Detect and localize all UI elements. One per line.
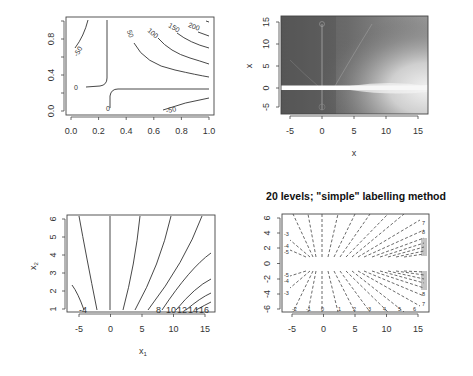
x-tick-label: 15 [413,324,423,334]
contour-label: 12 [177,305,187,315]
contour-label: -50 [72,45,83,57]
figure-canvas: -50 0 0 50 100 150 200 -50 0.0 0.2 0.4 0… [0,0,473,376]
y-tick-label: 1 [48,306,58,311]
x-tick-label: 10 [381,324,391,334]
y-axis-title-subscript: 2 [33,262,39,266]
contour-label: -5 [284,249,289,255]
contour-label: -1 [306,306,311,312]
y-tick-label: 0.0 [46,105,56,118]
x-tick-label: 10 [168,324,178,334]
plot-frame [282,214,429,312]
contour-label: 8 [422,291,425,297]
contour-label: 100 [146,27,160,40]
contour-label: 8 [422,229,425,235]
x-axis: -5 0 5 10 15 x [286,116,423,158]
contour-label: 7 [422,220,425,226]
contour-label: 10 [166,305,176,315]
x-axis: -5 0 5 10 15 x1 [75,314,210,357]
contour-label: 2 [353,306,356,312]
y-axis-title: x [244,63,254,68]
contour-label: 14 [188,305,198,315]
contour-label: 0 [74,84,78,91]
y-tick-label: 0 [261,85,271,90]
dashed-contour-lines [290,214,424,312]
contour-label: 6 [413,306,416,312]
y-tick-label: 10 [261,39,271,49]
x-tick-label: -5 [288,324,296,334]
x-tick-label: 0.2 [92,126,105,136]
y-tick-label: 15 [261,17,271,27]
contour-label: 8 [156,305,161,315]
x-tick-label: 10 [381,126,391,136]
x-tick-label: 5 [352,324,357,334]
x-tick-label: 1.0 [203,126,216,136]
x-axis-title-subscript: 1 [144,351,148,357]
x-axis: 0.0 0.2 0.4 0.6 0.8 1.0 [65,117,216,136]
y-tick-label: 4 [48,252,58,257]
contour-label: 5 [398,306,401,312]
contour-labels: -50 0 0 50 100 150 200 -50 [72,21,200,114]
contour-label: -50 [165,105,176,114]
contour-label: 3 [368,306,371,312]
x-tick-label: 15 [200,324,210,334]
y-axis: -6 -4 -2 0 2 4 6 [262,215,280,313]
panel-bottom-left: -4 8 10 12 14 16 -5 0 5 10 15 x1 [28,215,215,357]
x-axis-title: x1 [139,346,148,357]
y-tick-label: 5 [261,63,271,68]
x-tick-label: 0 [319,126,324,136]
contour-labels: -4 8 10 12 14 16 [79,305,209,315]
y-tick-label: 2 [262,245,272,250]
panel-top-right: -5 0 5 10 15 x -5 0 5 10 15 x [244,16,428,158]
y-tick-label: -6 [262,305,272,313]
y-tick-label: 3 [48,270,58,275]
contour-lines [72,216,211,310]
y-tick-label: -4 [262,290,272,298]
contour-label: -4 [284,278,289,284]
dense-label-cluster [421,238,427,256]
contour-label: 16 [199,305,209,315]
x-tick-label: 0.6 [148,126,161,136]
y-axis: 0.0 0.4 0.8 [46,21,64,117]
x-tick-label: 5 [139,324,144,334]
x-tick-label: 5 [351,126,356,136]
x-tick-label: 0 [321,324,326,334]
dense-label-cluster [421,271,427,290]
plot-title: 20 levels; "simple" labelling method [266,190,446,202]
contour-label: 200 [187,21,200,32]
y-tick-label: 6 [262,215,272,220]
y-tick-label: 5 [48,234,58,239]
contour-label: -2 [292,306,297,312]
x-tick-label: -5 [75,324,83,334]
contour-label: 0 [321,306,324,312]
contour-label: 0 [106,105,110,112]
x-tick-label: 0.0 [65,126,78,136]
panel-bottom-right: 20 levels; "simple" labelling method [262,190,446,334]
contour-label: -4 [79,305,87,315]
x-tick-label: -5 [286,126,294,136]
contour-label: -3 [284,231,289,237]
contour-lines [75,20,209,110]
contour-label: -3 [284,290,289,296]
plot-frame [66,17,214,115]
y-tick-label: -2 [262,275,272,283]
contour-labels: -2 -1 0 1 2 3 4 5 6 -3 -4 -5 -5 -4 -3 7 … [284,220,427,312]
y-tick-label: -5 [261,103,271,111]
x-tick-label: 15 [413,126,423,136]
y-tick-label: 0.8 [46,33,56,46]
contour-label: 7 [422,301,425,307]
y-tick-label: 6 [48,216,58,221]
y-axis-title: x2 [28,262,39,271]
y-tick-label: 4 [262,230,272,235]
heatmap-image [281,16,428,114]
contour-label: 50 [126,29,135,39]
contour-label: 1 [338,306,341,312]
y-tick-label: 0.4 [46,69,56,82]
x-tick-label: 0 [108,324,113,334]
contour-label: 4 [383,306,386,312]
x-tick-label: 0.4 [120,126,133,136]
x-axis-title: x [352,148,357,158]
contour-label: 150 [167,22,181,34]
x-axis: -5 0 5 10 15 [288,314,423,334]
x-tick-label: 0.8 [175,126,188,136]
y-axis: -5 0 5 10 15 x [244,17,279,111]
